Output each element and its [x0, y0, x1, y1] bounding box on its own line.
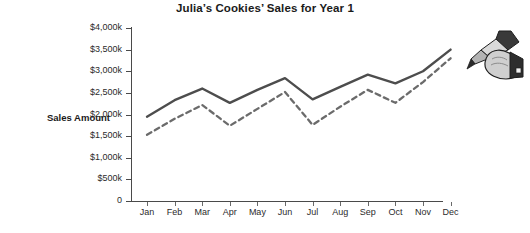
chart-screenshot: Julia’s Cookies’ Sales for Year 1 Sales … [0, 0, 530, 233]
hand-drawing-pen-icon [466, 28, 526, 82]
series-line-dashed [147, 58, 451, 135]
plot-area: $4,000k$3,500k$3,000k$2,500k$2,000k$1,50… [0, 0, 530, 233]
series-line-solid [147, 50, 451, 117]
series-plot [0, 0, 530, 233]
